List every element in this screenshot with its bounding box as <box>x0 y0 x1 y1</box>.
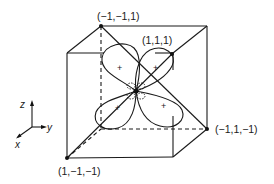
orbital-cube-diagram: + + + + (−1,−1,1) (1,1,1) (−1,1,−1) (1,−… <box>0 0 274 184</box>
label-neg1-1-neg1: (−1,1,−1) <box>215 123 258 135</box>
label-neg1-neg1-1: (−1,−1,1) <box>97 10 140 22</box>
sign-lower-right: + <box>161 101 166 111</box>
label-1-neg1-neg1: (1,−1,−1) <box>58 165 101 177</box>
sign-upper-right: + <box>153 63 158 73</box>
lobe-signs: + + + + <box>115 63 166 113</box>
axis-z-label: z <box>19 99 25 110</box>
sign-lower-left: + <box>115 103 120 113</box>
sign-upper-left: + <box>117 63 122 73</box>
lobe-lower-right <box>136 91 183 127</box>
axis-x-label: x <box>14 139 21 150</box>
coordinate-axes: z y x <box>14 99 53 150</box>
axis-y-label: y <box>46 122 53 133</box>
label-1-1-1: (1,1,1) <box>142 34 172 46</box>
nucleus-dot <box>133 88 138 93</box>
